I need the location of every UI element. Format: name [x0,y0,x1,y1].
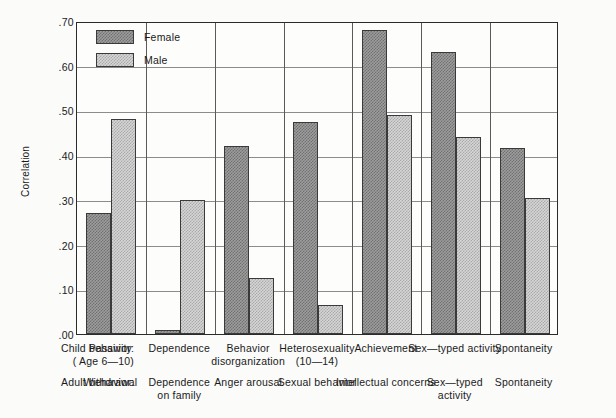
bar-female-6[interactable] [500,148,525,334]
y-axis-tick-label: .10 [40,284,74,296]
bar-male-0[interactable] [111,119,136,334]
child-behavior-row-subtitle: ( Age 6—10) [6,355,134,367]
y-axis-title: Correlation [20,146,31,197]
y-axis: Correlation .70.60.50.40.30.20.10.00 [32,22,74,335]
bar-male-1[interactable] [180,200,205,334]
group-separator [352,23,353,334]
legend-swatch-female [96,30,134,44]
legend-item-male[interactable]: Male [96,53,180,67]
child-behavior-cell-line1-6: Spontaneity [454,342,594,355]
y-axis-tick-label: .30 [40,195,74,207]
y-axis-tick-label: .60 [40,61,74,73]
legend-label-female: Female [144,31,180,43]
legend: Female Male [96,30,180,76]
bar-female-3[interactable] [293,122,318,334]
group-separator [284,23,285,334]
child-behavior-cell-6: Spontaneity [454,342,594,355]
bar-chart-figure: Correlation .70.60.50.40.30.20.10.00 Fem… [0,0,616,418]
adult-behavior-cell-line1-6: Spontaneity [454,376,594,389]
legend-item-female[interactable]: Female [96,30,180,44]
adult-behavior-cell-6: Spontaneity [454,376,594,389]
group-separator [421,23,422,334]
y-axis-tick-label: .70 [40,16,74,28]
bar-male-3[interactable] [318,305,343,334]
x-axis-label-table: Child behavior: ( Age 6—10) Adult behavi… [0,338,616,416]
adult-behavior-cell-line2-5: activity [385,389,525,402]
bar-male-2[interactable] [249,278,274,334]
bar-female-0[interactable] [86,213,111,334]
child-behavior-cell-line2-3: (10—14) [247,355,387,368]
bar-male-6[interactable] [525,198,550,334]
bar-female-5[interactable] [431,52,456,334]
bar-male-4[interactable] [387,115,412,334]
adult-behavior-cell-line2-1: on family [109,389,249,402]
y-axis-tick-label: .50 [40,105,74,117]
group-separator [490,23,491,334]
legend-label-male: Male [144,54,168,66]
bar-female-4[interactable] [362,30,387,334]
legend-swatch-male [96,53,134,67]
group-separator [215,23,216,334]
y-axis-tick-label: .40 [40,150,74,162]
y-axis-tick-label: .20 [40,240,74,252]
bar-female-2[interactable] [224,146,249,334]
bar-female-1[interactable] [155,330,180,334]
gridline [77,112,557,113]
bar-male-5[interactable] [456,137,481,334]
